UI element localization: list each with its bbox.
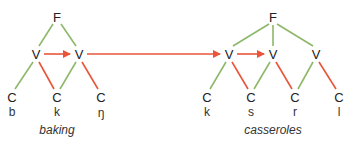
segment-label: s (248, 106, 254, 119)
consonant-node: C (290, 91, 299, 104)
word-label-baking: baking (39, 124, 74, 137)
word-label-casseroles: casseroles (244, 124, 301, 137)
consonant-node: C (96, 91, 105, 104)
casseroles-red-branches (232, 62, 336, 89)
vowel-node: V (312, 48, 321, 61)
consonant-node: C (202, 91, 211, 104)
segment-label: l (338, 106, 341, 119)
consonant-node: C (52, 91, 61, 104)
segment-label: r (293, 106, 297, 119)
consonant-node: C (7, 91, 16, 104)
foot-node: F (269, 11, 277, 24)
foot-node: F (53, 11, 61, 24)
segment-label: b (9, 106, 16, 119)
baking-green-branches (15, 24, 76, 89)
segment-label: k (204, 106, 210, 119)
vowel-node: V (75, 48, 84, 61)
vowel-node: V (32, 48, 41, 61)
segment-label: ŋ (98, 107, 105, 120)
segment-label: k (54, 106, 60, 119)
consonant-node: C (246, 91, 255, 104)
consonant-node: C (334, 91, 343, 104)
vowel-node: V (269, 48, 278, 61)
vowel-node: V (225, 48, 234, 61)
